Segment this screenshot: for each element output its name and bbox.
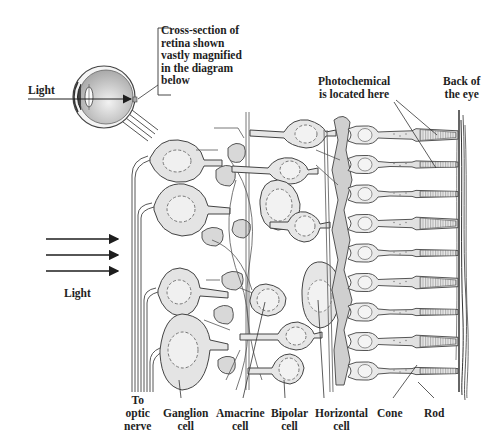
label-line: Horizontal [315, 407, 368, 420]
callout-line: retina shown [161, 37, 242, 50]
label-cone: Cone [377, 407, 403, 420]
label-bipolar-cell: Bipolar cell [271, 407, 308, 433]
label-amacrine-cell: Amacrine cell [216, 407, 265, 433]
label-line: To [124, 394, 151, 407]
label-line: cell [216, 420, 265, 433]
callout-line: below [161, 74, 242, 87]
label-line: cell [163, 420, 208, 433]
rod-cell [348, 244, 458, 262]
inset-callout: Cross-section of retina shown vastly mag… [161, 24, 242, 87]
label-line: cell [271, 420, 308, 433]
label-line: is located here [318, 88, 390, 101]
rod-leader [418, 382, 434, 398]
label-line: the eye [443, 88, 480, 101]
label-horizontal-cell: Horizontal cell [315, 407, 368, 433]
rod-cell [348, 185, 458, 203]
label-rod: Rod [424, 407, 444, 420]
outer-segment [420, 191, 456, 197]
cone-cell [348, 332, 458, 350]
outer-segment [420, 309, 456, 315]
back-of-eye-label: Back of the eye [443, 75, 480, 101]
cone-cell [348, 214, 458, 232]
callout-line: in the diagram [161, 62, 242, 75]
label-line: Bipolar [271, 407, 308, 420]
rod-cell [348, 303, 458, 321]
outer-segment [420, 368, 456, 374]
retina-illustration [0, 0, 503, 443]
light-arrows [46, 239, 118, 271]
outer-segment [420, 250, 456, 256]
label-line: Amacrine [216, 407, 265, 420]
label-line: cell [315, 420, 368, 433]
label-line: Photochemical [318, 75, 390, 88]
cone-cell [348, 273, 458, 291]
cone-cell [348, 126, 458, 144]
label-optic-nerve: To optic nerve [124, 394, 151, 433]
rod-cell [348, 362, 458, 380]
callout-line: Cross-section of [161, 24, 242, 37]
photoreceptors [348, 126, 458, 380]
retina-diagram: Light Cross-section of retina shown vast… [0, 0, 503, 443]
label-ganglion-cell: Ganglion cell [163, 407, 208, 433]
label-line: Ganglion [163, 407, 208, 420]
main-light-label: Light [64, 287, 91, 300]
label-line: optic [124, 407, 151, 420]
photochemical-label: Photochemical is located here [318, 75, 390, 101]
rod-cell [348, 155, 458, 173]
label-line: Rod [424, 407, 444, 420]
outer-segment [420, 162, 456, 168]
inset-light-label: Light [28, 84, 55, 97]
label-line: Back of [443, 75, 480, 88]
callout-line: vastly magnified [161, 49, 242, 62]
optic-nerve-fibers [132, 156, 162, 392]
label-line: Cone [377, 407, 403, 420]
horizontal-cells [302, 116, 352, 392]
label-line: nerve [124, 420, 151, 433]
